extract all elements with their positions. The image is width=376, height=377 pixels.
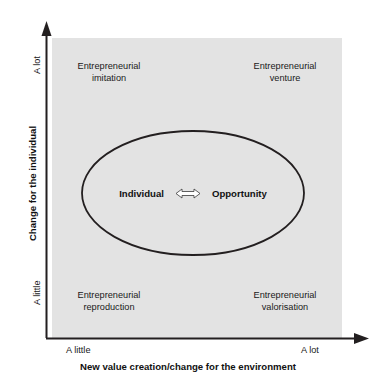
entrepreneurship-matrix-diagram: Individual Opportunity Entrepreneurial i… bbox=[0, 0, 376, 377]
quadrant-line-1: Entrepreneurial bbox=[56, 60, 162, 72]
y-axis-tick-high: A lot bbox=[32, 60, 42, 74]
y-axis-title: Change for the individual bbox=[27, 84, 38, 284]
quadrant-line-1: Entrepreneurial bbox=[232, 60, 338, 72]
quadrant-line-2: valorisation bbox=[232, 301, 338, 313]
y-axis-tick-low: A little bbox=[32, 283, 42, 305]
quadrant-line-1: Entrepreneurial bbox=[232, 289, 338, 301]
ellipse-content: Individual Opportunity bbox=[80, 128, 306, 258]
x-axis-tick-low: A little bbox=[66, 345, 91, 355]
quadrant-line-1: Entrepreneurial bbox=[56, 289, 162, 301]
individual-label: Individual bbox=[119, 188, 164, 199]
x-axis-tick-high: A lot bbox=[301, 345, 319, 355]
quadrant-label-entrepreneurial-imitation: Entrepreneurial imitation bbox=[56, 60, 162, 84]
double-headed-arrow-icon bbox=[175, 187, 201, 200]
quadrant-line-2: reproduction bbox=[56, 301, 162, 313]
quadrant-label-entrepreneurial-valorisation: Entrepreneurial valorisation bbox=[232, 289, 338, 313]
quadrant-label-entrepreneurial-reproduction: Entrepreneurial reproduction bbox=[56, 289, 162, 313]
quadrant-line-2: imitation bbox=[56, 72, 162, 84]
quadrant-line-2: venture bbox=[232, 72, 338, 84]
x-axis-title: New value creation/change for the enviro… bbox=[0, 361, 376, 372]
opportunity-label: Opportunity bbox=[212, 188, 267, 199]
y-axis-arrowhead-icon bbox=[42, 21, 52, 36]
quadrant-label-entrepreneurial-venture: Entrepreneurial venture bbox=[232, 60, 338, 84]
x-axis-arrowhead-icon bbox=[354, 333, 369, 344]
